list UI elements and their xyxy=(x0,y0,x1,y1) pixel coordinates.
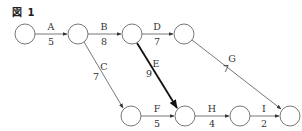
edge-i: I 2 xyxy=(250,103,279,129)
node-4 xyxy=(174,24,194,44)
node-8 xyxy=(280,106,300,126)
edge-f: F 5 xyxy=(141,103,174,129)
edge-e-name: E xyxy=(153,58,160,69)
node-5 xyxy=(121,106,141,126)
node-2 xyxy=(68,24,88,44)
edge-d: D 7 xyxy=(142,21,173,47)
edge-a-duration: 5 xyxy=(48,36,54,47)
edge-h-name: H xyxy=(208,103,216,114)
network-diagram: A 5 B 8 C 7 D 7 E 9 F 5 G 7 H 4 xyxy=(0,0,302,131)
node-3 xyxy=(122,24,142,44)
edge-i-name: I xyxy=(262,103,266,114)
edge-g: G 7 xyxy=(192,40,281,109)
node-1 xyxy=(15,24,35,44)
edge-e-duration: 9 xyxy=(146,68,152,79)
edge-e: E 9 xyxy=(137,43,177,108)
edge-d-name: D xyxy=(153,21,161,32)
edge-a-name: A xyxy=(47,21,55,32)
edge-b-name: B xyxy=(101,21,108,32)
edge-b: B 8 xyxy=(88,21,121,47)
node-7 xyxy=(230,106,250,126)
edge-c-duration: 7 xyxy=(93,71,99,82)
edge-f-name: F xyxy=(154,103,161,114)
edge-g-duration: 7 xyxy=(223,63,229,74)
edge-i-duration: 2 xyxy=(261,118,267,129)
edge-f-duration: 5 xyxy=(154,118,160,129)
edge-h-duration: 4 xyxy=(209,118,215,129)
edge-h: H 4 xyxy=(195,103,229,129)
edge-g-name: G xyxy=(228,53,236,64)
edge-a: A 5 xyxy=(35,21,67,47)
edge-b-duration: 8 xyxy=(101,36,107,47)
edge-d-duration: 7 xyxy=(154,36,160,47)
node-6 xyxy=(175,106,195,126)
edge-c-name: C xyxy=(100,61,107,72)
edge-c: C 7 xyxy=(84,42,123,108)
